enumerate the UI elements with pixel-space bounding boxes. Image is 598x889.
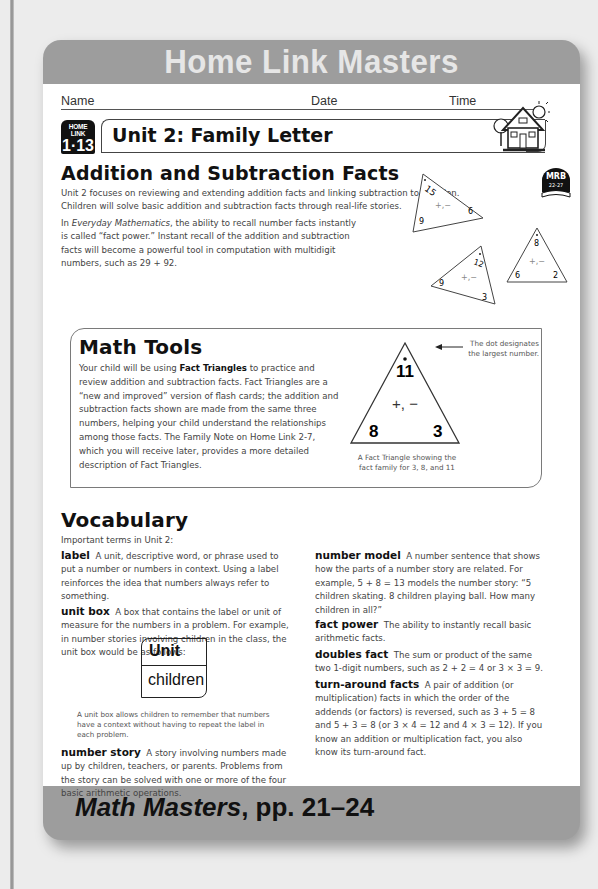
page-binding-edge <box>10 0 14 889</box>
home-link-badge: HOME LINK 1·13 <box>61 120 95 154</box>
svg-text:6: 6 <box>468 207 473 216</box>
svg-text:11: 11 <box>396 362 414 381</box>
home-link-masters-card: Home Link Masters Name Date Time HOME LI… <box>43 40 580 840</box>
addition-paragraph-2: In Everyday Mathematics, the ability to … <box>61 217 361 271</box>
svg-text:3: 3 <box>482 293 487 302</box>
fact-triangle-11-3-8-icon: 11 +, − 8 3 <box>347 337 463 449</box>
family-letter-sheet: Name Date Time HOME LINK 1·13 Unit 2: Fa… <box>43 84 580 786</box>
footer-math-masters-pages: Math Masters, pp. 21–24 <box>75 792 374 823</box>
letter-title: Unit 2: Family Letter <box>112 124 333 146</box>
svg-text:2: 2 <box>553 271 558 280</box>
fact-triangle-caption: A Fact Triangle showing the fact family … <box>357 453 457 473</box>
addition-subtraction-heading: Addition and Subtraction Facts <box>61 162 399 184</box>
time-label: Time <box>449 94 476 108</box>
fact-triangle-8-icon: 8 6 2 +,− <box>505 224 571 284</box>
svg-text:MRB: MRB <box>546 172 566 181</box>
unit-box-example: Unit children <box>141 638 207 698</box>
fact-triangle-12-icon: 12 9 3 +,− <box>429 242 497 308</box>
math-tools-heading: Math Tools <box>79 335 202 359</box>
vocab-term-number-model: number model A number sentence that show… <box>315 549 547 617</box>
dot-note: The dot designates the largest number. <box>467 339 539 359</box>
arrow-icon <box>435 343 463 351</box>
math-tools-paragraph: Your child will be using Fact Triangles … <box>79 362 341 472</box>
fact-triangle-15-icon: 15 9 6 +,− <box>411 166 491 236</box>
vocab-term-fact-power: fact power The ability to instantly reca… <box>315 618 547 646</box>
svg-text:+,−: +,− <box>529 257 545 266</box>
svg-text:+,−: +,− <box>435 201 451 210</box>
letter-title-box: Unit 2: Family Letter <box>101 119 545 153</box>
svg-text:9: 9 <box>439 279 444 288</box>
vocab-term-turn-around-facts: turn-around facts A pair of addition (or… <box>315 678 547 759</box>
svg-text:8: 8 <box>369 422 378 441</box>
vocab-term-label: label A unit, descriptive word, or phras… <box>61 549 293 604</box>
mrb-badge-icon: MRB 22-27 <box>539 166 573 200</box>
svg-text:+, −: +, − <box>392 395 418 412</box>
svg-text:8: 8 <box>534 239 539 248</box>
vocab-term-doubles-fact: doubles fact The sum or product of the s… <box>315 648 547 676</box>
math-tools-box: Math Tools Your child will be using Fact… <box>70 328 542 488</box>
svg-text:9: 9 <box>419 217 424 226</box>
banner-title: Home Link Masters <box>64 42 558 84</box>
svg-text:+,−: +,− <box>461 273 477 282</box>
addition-paragraph-1: Unit 2 focuses on reviewing and extendin… <box>61 187 471 214</box>
svg-text:22-27: 22-27 <box>549 182 564 188</box>
name-label: Name <box>61 94 94 108</box>
name-date-time-row: Name Date Time <box>61 92 541 110</box>
svg-text:3: 3 <box>433 422 442 441</box>
house-icon <box>493 100 551 154</box>
vocabulary-intro: Important terms in Unit 2: <box>61 534 173 547</box>
vocabulary-heading: Vocabulary <box>61 508 188 532</box>
unit-box-caption: A unit box allows children to remember t… <box>77 710 277 740</box>
date-label: Date <box>311 94 337 108</box>
svg-text:6: 6 <box>515 271 520 280</box>
